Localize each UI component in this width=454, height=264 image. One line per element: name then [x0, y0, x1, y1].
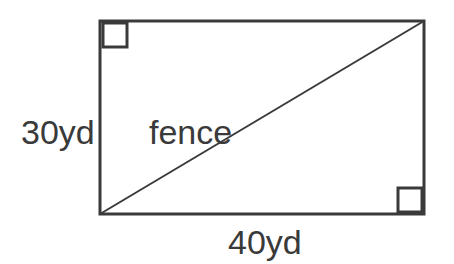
fence-diagram: 30yd 40yd fence [0, 0, 454, 264]
fence-label: fence [149, 115, 232, 149]
base-label: 40yd [228, 225, 302, 259]
height-label: 30yd [21, 115, 95, 149]
